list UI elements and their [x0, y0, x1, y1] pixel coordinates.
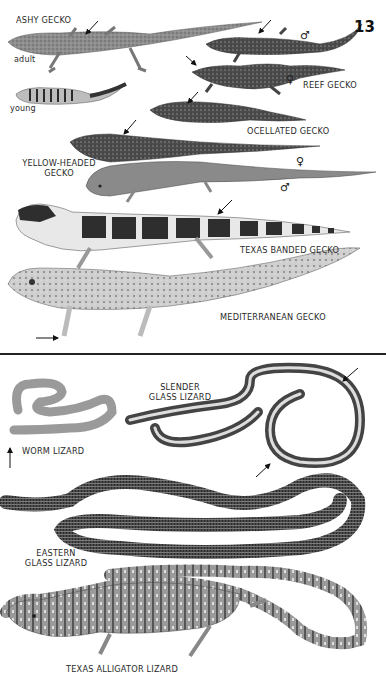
yellow-headed-gecko-male-illustration — [86, 162, 376, 203]
female-symbol: ♀ — [286, 74, 294, 85]
illustrations — [0, 0, 386, 693]
label-line2: GECKO — [14, 168, 104, 178]
label-slender-glass-lizard: SLENDER GLASS LIZARD — [140, 382, 220, 402]
label-worm-lizard: WORM LIZARD — [22, 446, 84, 456]
label-ocellated-gecko: OCELLATED GECKO — [247, 126, 329, 136]
ashy-gecko-young-illustration — [16, 84, 126, 104]
worm-lizard-illustration — [14, 383, 112, 430]
ocellated-gecko-illustration — [150, 102, 306, 123]
label-line2: GLASS LIZARD — [140, 392, 220, 402]
section-divider — [0, 353, 386, 355]
label-line2: GLASS LIZARD — [20, 558, 92, 568]
label-eastern-glass-lizard: EASTERN GLASS LIZARD — [20, 548, 92, 568]
page-number: 13 — [354, 18, 375, 36]
label-ashy-young: young — [10, 104, 36, 114]
label-yellow-headed-gecko: YELLOW-HEADED GECKO — [14, 158, 104, 178]
label-ashy-adult: adult — [14, 55, 35, 65]
label-reef-gecko: REEF GECKO — [303, 80, 357, 90]
label-line1: EASTERN — [20, 548, 92, 558]
label-texas-banded-gecko: TEXAS BANDED GECKO — [240, 245, 339, 255]
yellow-headed-gecko-female-illustration — [70, 134, 320, 162]
mediterranean-gecko-illustration — [8, 248, 360, 336]
label-line1: YELLOW-HEADED — [14, 158, 104, 168]
reef-gecko-male-illustration — [206, 24, 362, 62]
texas-alligator-lizard-illustration — [6, 571, 361, 656]
male-symbol: ♂ — [300, 30, 310, 41]
label-mediterranean-gecko: MEDITERRANEAN GECKO — [220, 312, 326, 322]
label-ashy-gecko: ASHY GECKO — [16, 15, 71, 25]
label-line1: SLENDER — [140, 382, 220, 392]
female-symbol: ♀ — [296, 156, 304, 167]
label-texas-alligator-lizard: TEXAS ALLIGATOR LIZARD — [66, 664, 178, 674]
field-guide-plate: 13 ASHY GECKO adult young ♂ ♀ REEF GECKO… — [0, 0, 386, 693]
male-symbol: ♂ — [280, 182, 290, 193]
eastern-glass-lizard-illustration — [6, 480, 358, 552]
